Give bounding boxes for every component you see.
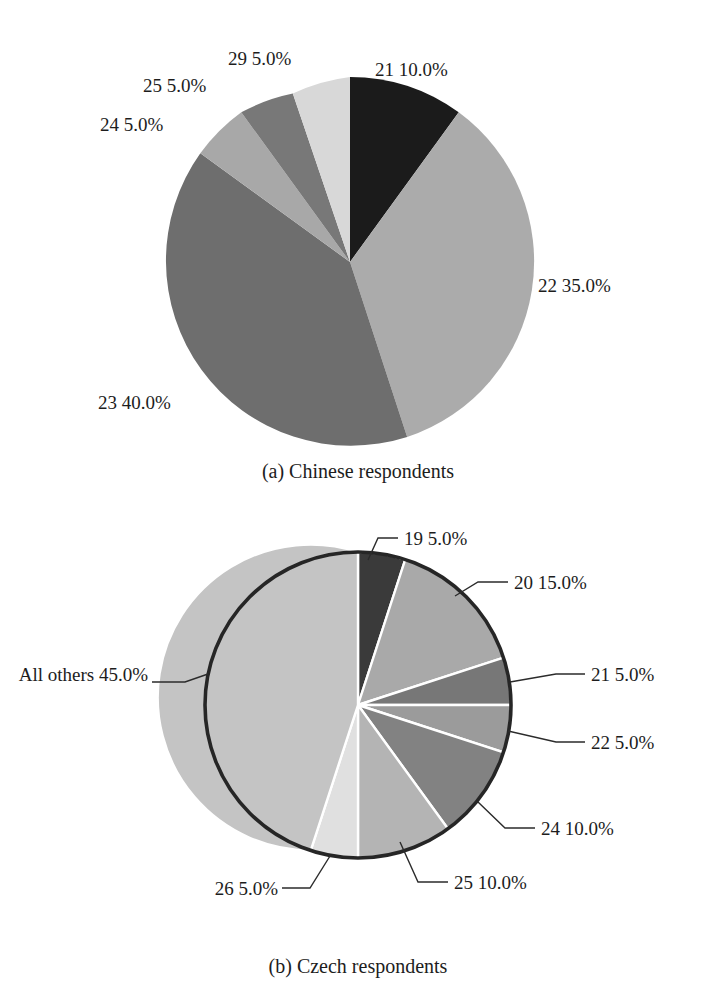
pie-a-label-24: 24 5.0%	[100, 114, 164, 135]
pie-a-label-23: 23 40.0%	[98, 392, 171, 413]
pie-b-leader-21	[510, 674, 585, 682]
panel-b-caption: (b) Czech respondents	[269, 955, 448, 978]
figure-two-pie-charts: 21 10.0% 22 35.0% 23 40.0% 24 5.0% 25 5.…	[0, 0, 716, 1008]
pie-b-label-19: 19 5.0%	[404, 528, 468, 549]
pie-b-label-all-others: All others 45.0%	[19, 664, 148, 685]
pie-b-leader-22	[508, 731, 585, 742]
pie-a-slices	[166, 77, 534, 446]
pie-b-label-24: 24 10.0%	[541, 818, 614, 839]
panel-a-caption: (a) Chinese respondents	[262, 460, 454, 483]
panel-b-chart: 19 5.0% 20 15.0% 21 5.0% 22 5.0% 24 10.0…	[0, 490, 716, 998]
pie-b-slices	[158, 545, 511, 859]
pie-a-label-22: 22 35.0%	[538, 275, 611, 296]
pie-a-label-25: 25 5.0%	[143, 75, 207, 96]
pie-b-label-21: 21 5.0%	[591, 664, 655, 685]
pie-a-label-29: 29 5.0%	[228, 48, 292, 69]
panel-a-chart: 21 10.0% 22 35.0% 23 40.0% 24 5.0% 25 5.…	[0, 0, 716, 500]
pie-b-label-26: 26 5.0%	[215, 878, 279, 899]
pie-b-label-20: 20 15.0%	[514, 572, 587, 593]
pie-b-leader-26	[282, 856, 330, 888]
pie-b-label-22: 22 5.0%	[591, 732, 655, 753]
pie-a-label-21: 21 10.0%	[375, 59, 448, 80]
pie-b-leader-24	[478, 802, 535, 828]
pie-b-label-25: 25 10.0%	[454, 872, 527, 893]
